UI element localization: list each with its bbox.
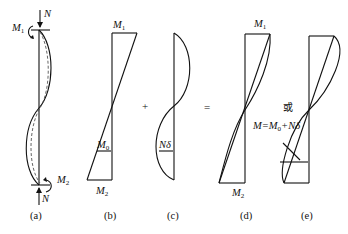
caption-e: (e) <box>301 210 313 222</box>
panel-e-total-moment-alt: M=M0+Nδ (e) <box>252 36 340 222</box>
label-bottom-moment: M2 <box>56 174 70 187</box>
label-b-top: M1 <box>112 19 126 32</box>
panel-c-second-order-moment: Nδ (c) <box>156 33 190 222</box>
moment-diagram-figure: N M1 M2 N (a) M1 M0 M2 (b) + Nδ (c) <box>0 0 348 234</box>
panel-b-first-order-moment: M1 M0 M2 (b) <box>87 19 137 222</box>
equals-operator: = <box>204 101 210 113</box>
label-top-moment: M1 <box>11 22 25 35</box>
label-c-mid: Nδ <box>158 139 172 150</box>
caption-d: (d) <box>240 210 253 222</box>
ndelta-curve <box>156 33 190 180</box>
label-d-top: M1 <box>253 18 267 31</box>
label-bottom-force: N <box>41 193 50 204</box>
or-text: 或 <box>283 102 293 113</box>
label-top-force: N <box>43 8 52 19</box>
leader-line <box>283 143 300 160</box>
caption-a: (a) <box>30 210 42 222</box>
label-b-mid: M0 <box>96 139 110 152</box>
label-b-bottom: M2 <box>95 185 109 198</box>
caption-b: (b) <box>104 210 117 222</box>
plus-operator: + <box>142 100 148 112</box>
panel-a-column: N M1 M2 N (a) <box>11 8 70 222</box>
label-d-bottom: M2 <box>231 187 245 200</box>
caption-c: (c) <box>167 210 179 222</box>
